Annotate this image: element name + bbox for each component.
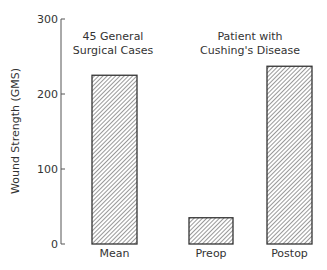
x-tick-label: Preop	[195, 247, 226, 260]
bar-chart: 0100200300 Wound Strength (GMS) 45 Gener…	[0, 0, 327, 270]
x-tick-label: Mean	[100, 247, 130, 260]
bar-postop	[267, 66, 312, 244]
group-label: Cushing's Disease	[200, 44, 300, 57]
group-label: Patient with	[217, 30, 282, 43]
y-tick-label: 100	[37, 163, 58, 176]
bar-mean	[92, 75, 137, 244]
y-axis-label: Wound Strength (GMS)	[9, 68, 22, 194]
y-tick-label: 200	[37, 88, 58, 101]
x-tick-label: Postop	[271, 247, 308, 260]
y-tick-label: 300	[37, 13, 58, 26]
group-label: 45 General	[83, 30, 144, 43]
bar-preop	[189, 218, 233, 244]
group-label: Surgical Cases	[73, 44, 154, 57]
y-tick-label: 0	[51, 238, 58, 251]
